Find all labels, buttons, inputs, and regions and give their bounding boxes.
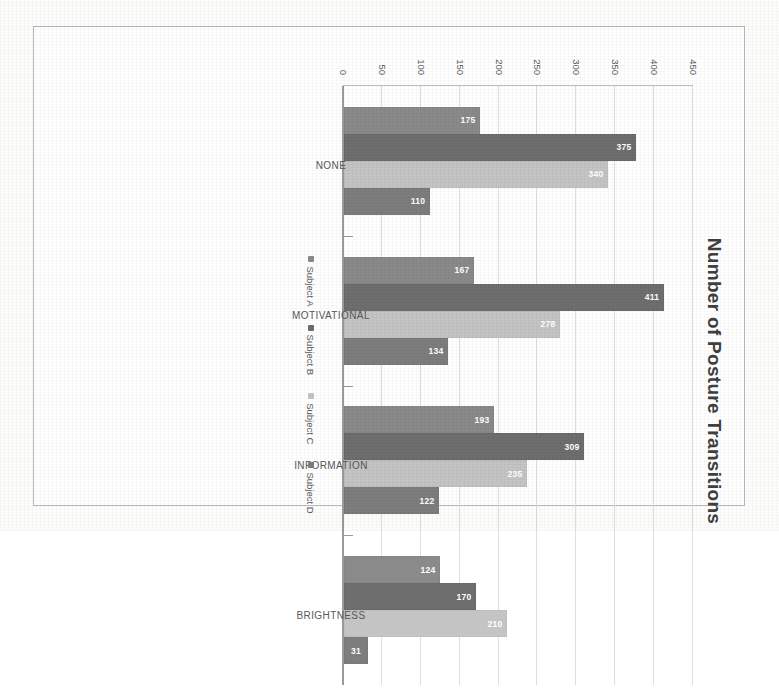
bar-motivational-series-0[interactable]: 167 <box>344 257 474 284</box>
bar-information-series-0[interactable]: 193 <box>344 406 494 433</box>
bar-motivational-series-1[interactable]: 411 <box>344 284 664 311</box>
legend-swatch-icon <box>308 256 314 262</box>
bar-value-label: 309 <box>565 442 580 452</box>
bar-value-label: 122 <box>419 496 434 506</box>
legend-label: Subject C <box>306 403 317 444</box>
bar-information-series-2[interactable]: 235 <box>344 460 527 487</box>
legend-label: Subject B <box>306 335 317 376</box>
bar-group-motivational: 167411278134 <box>344 236 693 386</box>
legend-item-subject-b[interactable]: Subject B <box>306 325 317 376</box>
bar-value-label: 375 <box>616 142 631 152</box>
y-tick-label-50: 50 <box>376 64 387 75</box>
bar-value-label: 31 <box>351 646 361 656</box>
y-tick-label-250: 250 <box>532 59 543 75</box>
y-tick-label-0: 0 <box>338 70 349 75</box>
y-axis: 050100150200250300350400450 <box>343 31 693 81</box>
legend-swatch-icon <box>308 462 314 468</box>
y-tick-label-400: 400 <box>649 59 660 75</box>
bar-group-information: 193309235122 <box>344 386 693 536</box>
bar-brightness-series-3[interactable]: 31 <box>344 637 368 664</box>
bar-groups: 1753753401101674112781341933092351221241… <box>344 86 693 685</box>
x-axis-categories: NONEMOTIVATIONALINFORMATIONBRIGHTNESS <box>223 85 343 685</box>
bar-value-label: 167 <box>454 265 469 275</box>
bar-value-label: 278 <box>541 319 556 329</box>
bar-value-label: 193 <box>475 415 490 425</box>
bar-group-none: 175375340110 <box>344 86 693 236</box>
legend-item-subject-c[interactable]: Subject C <box>306 393 317 444</box>
plot-area: 1753753401101674112781341933092351221241… <box>343 85 693 685</box>
y-tick-label-300: 300 <box>571 59 582 75</box>
y-tick-label-450: 450 <box>688 59 699 75</box>
bar-value-label: 134 <box>429 346 444 356</box>
bar-none-series-1[interactable]: 375 <box>344 134 636 161</box>
y-tick-label-150: 150 <box>454 59 465 75</box>
y-tick-label-200: 200 <box>493 59 504 75</box>
bar-brightness-series-1[interactable]: 170 <box>344 583 476 610</box>
bar-brightness-series-2[interactable]: 210 <box>344 610 507 637</box>
bar-value-label: 175 <box>461 115 476 125</box>
x-category-none: NONE <box>223 85 343 235</box>
legend-swatch-icon <box>308 393 314 399</box>
legend-item-subject-a[interactable]: Subject A <box>306 256 317 306</box>
chart-title: Number of Posture Transitions <box>697 31 731 689</box>
bar-information-series-3[interactable]: 122 <box>344 487 439 514</box>
legend-swatch-icon <box>308 325 314 331</box>
bar-value-label: 411 <box>644 292 658 302</box>
bar-value-label: 340 <box>589 169 604 179</box>
bar-motivational-series-2[interactable]: 278 <box>344 311 560 338</box>
bar-value-label: 110 <box>410 196 424 206</box>
bar-none-series-0[interactable]: 175 <box>344 107 480 134</box>
legend-label: Subject D <box>306 472 317 513</box>
bar-information-series-1[interactable]: 309 <box>344 433 584 460</box>
chart-legend: Subject ASubject BSubject CSubject D <box>301 85 321 685</box>
rotated-chart-canvas: Number of Posture Transitions 0501001502… <box>39 31 739 501</box>
x-category-motivational: MOTIVATIONAL <box>223 235 343 385</box>
y-tick-label-100: 100 <box>415 59 426 75</box>
bar-value-label: 170 <box>457 592 472 602</box>
figure-frame: Number of Posture Transitions 0501001502… <box>33 26 745 506</box>
bar-value-label: 124 <box>421 565 436 575</box>
legend-item-subject-d[interactable]: Subject D <box>306 462 317 513</box>
x-category-brightness: BRIGHTNESS <box>223 535 343 685</box>
bar-brightness-series-0[interactable]: 124 <box>344 556 440 583</box>
bar-value-label: 210 <box>488 619 503 629</box>
bar-motivational-series-3[interactable]: 134 <box>344 338 448 365</box>
legend-label: Subject A <box>306 266 317 306</box>
y-tick-label-350: 350 <box>610 59 621 75</box>
bar-none-series-2[interactable]: 340 <box>344 161 608 188</box>
bar-group-brightness: 12417021031 <box>344 535 693 685</box>
x-category-information: INFORMATION <box>223 385 343 535</box>
bar-none-series-3[interactable]: 110 <box>344 188 430 215</box>
bar-value-label: 235 <box>507 469 522 479</box>
